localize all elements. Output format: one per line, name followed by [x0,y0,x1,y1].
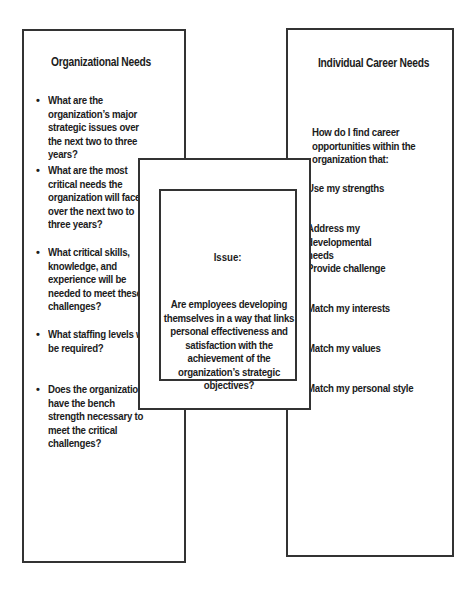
career-needs-list: •Use my strengths •Address my developmen… [299,182,457,396]
list-item: •Use my strengths [299,182,457,222]
career-intro-text: How do I find career opportunities withi… [312,126,421,167]
list-item: •Match my personal style [299,382,457,396]
list-item: •Match my values [299,342,457,382]
issue-question: Are employees developing themselves in a… [151,298,307,393]
individual-career-needs-title: Individual Career Needs [318,56,429,70]
list-item: •Provide challenge [299,262,457,302]
list-item: •What are the organization’s major strat… [36,94,173,164]
bullet-icon: • [36,164,40,178]
issue-label: Issue: [161,251,295,263]
bullet-icon: • [36,94,40,108]
individual-career-needs-panel: Individual Career Needs How do I find ca… [286,28,454,557]
list-item: •Match my interests [299,302,457,342]
list-item: •Address my developmental needs [299,222,457,262]
organizational-needs-title: Organizational Needs [51,55,151,69]
bullet-icon: • [36,246,40,260]
bullet-icon: • [36,328,40,342]
bullet-icon: • [36,383,40,397]
issue-panel: Issue: Are employees developing themselv… [159,189,297,381]
